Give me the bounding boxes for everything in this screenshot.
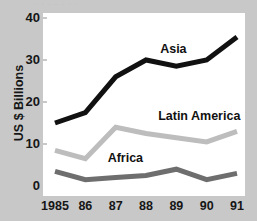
y-axis-tick-mark [43,101,47,103]
x-axis-tick-labels: 1985868788899091 [43,199,245,217]
series-line-latin-america [55,127,237,159]
chart-figure: · · · · · · · US $ Billions 010203040 19… [0,0,257,221]
series-lines [43,13,245,196]
x-axis-tick-mark [175,192,177,196]
x-axis-tick-mark [115,192,117,196]
x-axis-tick-89: 89 [169,199,183,213]
x-axis-tick-86: 86 [78,199,92,213]
series-label-africa: Africa [108,152,143,165]
y-axis-tick-mark [43,59,47,61]
series-line-africa [55,169,237,180]
series-label-asia: Asia [160,43,186,56]
y-axis-tick-20: 20 [8,95,40,108]
x-axis-tick-90: 90 [200,199,214,213]
y-axis-tick-10: 10 [8,137,40,150]
x-axis-tick-91: 91 [230,199,244,213]
x-axis-tick-mark [54,192,56,196]
y-axis-tick-mark [43,143,47,145]
x-axis-tick-mark [236,192,238,196]
series-label-latin-america: Latin America [158,110,240,123]
x-axis-tick-mark [145,192,147,196]
y-axis-tick-0: 0 [8,179,40,192]
x-axis-tick-mark [206,192,208,196]
plot-area [43,13,245,196]
y-axis-tick-30: 30 [8,53,40,66]
x-axis-tick-1985: 1985 [41,199,69,213]
y-axis-tick-40: 40 [8,11,40,24]
x-axis-tick-87: 87 [109,199,123,213]
x-axis-tick-88: 88 [139,199,153,213]
y-axis-tick-mark [43,17,47,19]
x-axis-tick-mark [84,192,86,196]
y-axis-tick-labels: 010203040 [0,0,40,221]
